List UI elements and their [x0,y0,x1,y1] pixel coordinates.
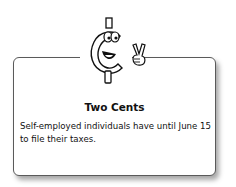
tip-title: Two Cents [13,101,216,113]
tip-body: Self-employed individuals have until Jun… [20,120,212,146]
cent-sign-mascot-peace-icon [76,14,156,86]
